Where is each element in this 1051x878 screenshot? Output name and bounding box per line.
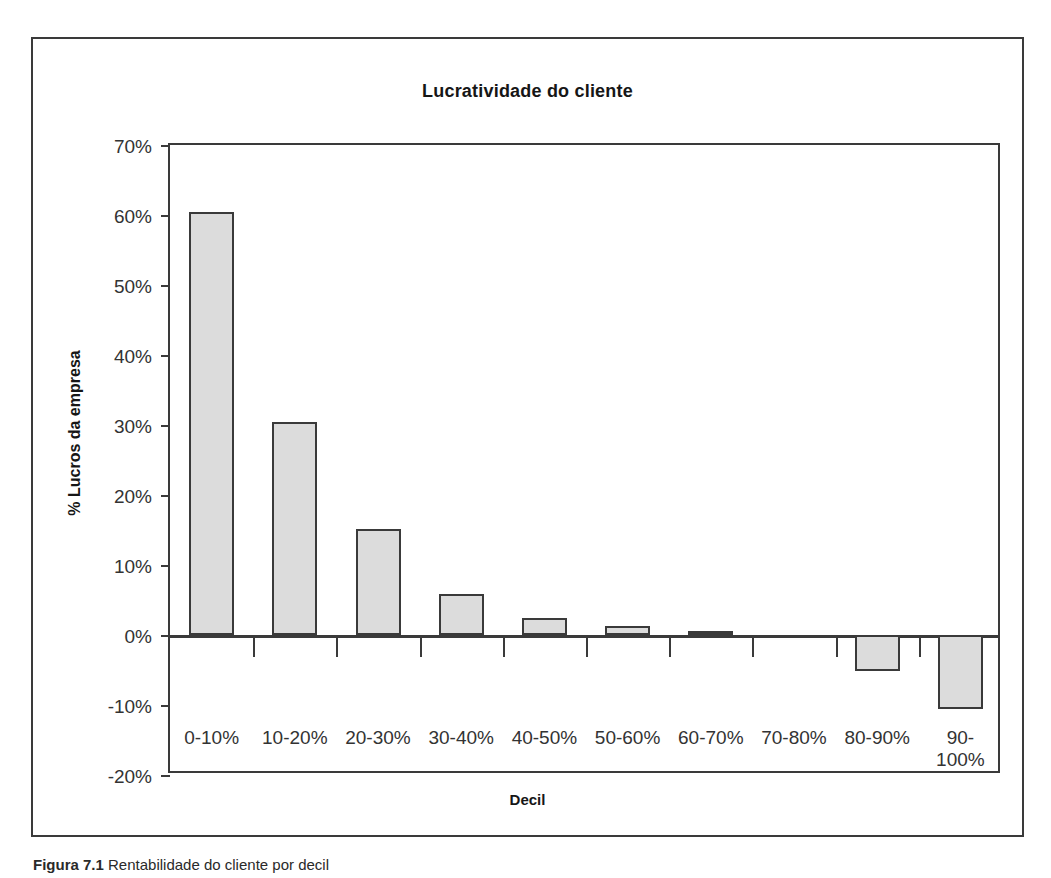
bar bbox=[605, 626, 650, 635]
y-axis-tick: 20% bbox=[161, 495, 170, 497]
x-axis-tick bbox=[503, 635, 505, 657]
x-axis-tick bbox=[919, 635, 921, 657]
y-axis-title: % Lucros da empresa bbox=[66, 333, 84, 533]
y-axis-tick-label: 10% bbox=[114, 556, 152, 578]
y-axis-tick: -10% bbox=[161, 705, 170, 707]
x-axis-tick bbox=[752, 635, 754, 657]
y-axis-tick: 10% bbox=[161, 565, 170, 567]
bar bbox=[938, 635, 983, 709]
y-axis-tick-label: 60% bbox=[114, 206, 152, 228]
y-axis-tick-label: -10% bbox=[108, 696, 152, 718]
y-axis-tick-label: 30% bbox=[114, 416, 152, 438]
figure-frame: Lucratividade do cliente % Lucros da emp… bbox=[31, 37, 1024, 837]
y-axis-tick-label: 70% bbox=[114, 136, 152, 158]
bar bbox=[855, 635, 900, 671]
chart-title: Lucratividade do cliente bbox=[33, 81, 1022, 102]
y-axis-tick-label: -20% bbox=[108, 766, 152, 788]
y-axis-tick-label: 50% bbox=[114, 276, 152, 298]
bar bbox=[189, 212, 234, 635]
x-axis-tick bbox=[420, 635, 422, 657]
figure-caption-text: Rentabilidade do cliente por decil bbox=[108, 856, 329, 873]
y-axis-tick-label: 40% bbox=[114, 346, 152, 368]
x-axis-category-label: 90- 100% bbox=[913, 727, 1008, 771]
bar bbox=[522, 618, 567, 636]
x-axis-tick bbox=[586, 635, 588, 657]
y-axis-tick: 70% bbox=[161, 145, 170, 147]
y-axis-tick: -20% bbox=[161, 775, 170, 777]
y-axis-tick: 60% bbox=[161, 215, 170, 217]
x-axis-tick bbox=[253, 635, 255, 657]
x-axis-tick bbox=[336, 635, 338, 657]
y-axis-tick-label: 20% bbox=[114, 486, 152, 508]
figure-caption-label: Figura 7.1 bbox=[33, 856, 104, 873]
x-axis-tick bbox=[669, 635, 671, 657]
y-axis-tick: 40% bbox=[161, 355, 170, 357]
bar bbox=[356, 529, 401, 635]
figure-caption: Figura 7.1 Rentabilidade do cliente por … bbox=[33, 856, 329, 873]
y-axis-tick: 30% bbox=[161, 425, 170, 427]
y-axis-tick: 50% bbox=[161, 285, 170, 287]
plot-area: 70%60%50%40%30%20%10%0%-10%-20% 0-10%10-… bbox=[168, 143, 1000, 773]
x-axis-title: Decil bbox=[33, 791, 1022, 808]
y-axis-tick-label: 0% bbox=[125, 626, 152, 648]
bar bbox=[688, 631, 733, 635]
bar bbox=[439, 594, 484, 635]
bar bbox=[272, 422, 317, 635]
y-axis-tick: 0% bbox=[161, 635, 170, 637]
x-axis-tick bbox=[836, 635, 838, 657]
